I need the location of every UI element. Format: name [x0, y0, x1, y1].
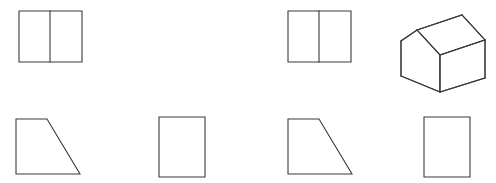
bottom-shape-2-rectangle: [159, 117, 205, 177]
top-view-right-divided-rectangle: [288, 11, 351, 62]
bottom-shape-4-rectangle: [424, 117, 470, 177]
bottom-shape-4-outline: [424, 117, 470, 177]
bottom-shape-2-outline: [159, 117, 205, 177]
bottom-shape-1-outline: [16, 119, 80, 174]
bottom-shape-3-outline: [288, 119, 352, 174]
geometry-figure-canvas: Orthographic views and solid Divided rec…: [0, 0, 496, 183]
solid-prism-3d: [401, 15, 485, 92]
bottom-shape-1-right-trapezoid: [16, 119, 80, 174]
shape-layer: [0, 0, 496, 183]
top-view-left-divided-rectangle: [19, 11, 82, 62]
bottom-shape-3-right-trapezoid: [288, 119, 352, 174]
